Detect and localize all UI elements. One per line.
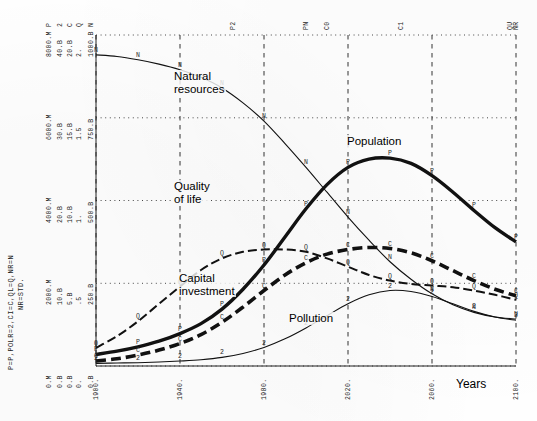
svg-text:N: N [178,62,182,69]
axis-code-C: C [67,23,74,27]
x-tick-2020: 2020. [345,378,352,400]
svg-text:C: C [346,242,350,249]
x-tick-2100: 2100. [513,378,520,400]
svg-text:C: C [136,347,140,354]
svg-text:2: 2 [388,283,392,290]
plot-svg: NNNNNNNNNNNPPPPPPPPPPPQQQQQQQQQQQCCCCCCC… [0,0,537,421]
svg-text:C: C [220,314,224,321]
top-marker-C0: C0 [324,21,331,30]
x-tick-2060: 2060. [429,378,436,400]
svg-text:C: C [430,253,434,260]
series-label-capital-investment: Capitalinvestment [178,272,236,297]
svg-text:Q: Q [346,259,350,266]
series-0: NNNNNNNNNNN [94,47,518,319]
svg-text:P: P [472,202,476,209]
series-label-pollution: Pollution [288,312,334,325]
series-label-natural-resources: Naturalresources [173,70,226,95]
y-tick-C-3: 5.B [67,292,74,305]
y-tick-2-3: 10.B [57,288,64,305]
svg-text:P: P [136,339,140,346]
svg-text:C: C [178,336,182,343]
x-tick-1900: 1900. [93,378,100,400]
axis-code-2: 2 [57,23,64,27]
series-label-population: Population [346,135,402,148]
y-tick-N-2: 500.B [88,201,95,223]
svg-text:C: C [388,241,392,248]
svg-text:P: P [262,257,266,264]
legend-key-text: P=P,POLR=2,CI=C,QL=Q,NR=N [8,255,15,370]
svg-text:2: 2 [220,349,224,356]
y-tick-P-0: 8000.M [46,31,53,57]
svg-text:2: 2 [514,312,518,319]
y-tick-N-3: 250.B [88,284,95,306]
svg-text:C: C [472,273,476,280]
svg-text:Q: Q [388,273,392,280]
top-marker-C1: C1 [398,21,405,30]
y-tick-P-3: 2000.M [46,279,53,305]
y-tick-P-4: 0.M [46,375,53,388]
top-marker-NR: NR [513,21,520,30]
svg-text:2: 2 [430,289,434,296]
svg-text:Q: Q [304,244,308,251]
x-tick-1940: 1940. [177,378,184,400]
y-tick-2-1: 30.B [57,123,64,140]
svg-text:P: P [430,168,434,175]
y-tick-P-1: 6000.M [46,114,53,140]
svg-text:P: P [514,234,518,241]
svg-text:P: P [304,201,308,208]
top-marker-P2: P2 [230,21,237,30]
svg-text:2: 2 [136,355,140,362]
svg-text:N: N [346,209,350,216]
svg-text:P: P [178,326,182,333]
y-tick-C-1: 15.B [67,123,74,140]
svg-text:C: C [514,288,518,295]
y-tick-Q-3: .5 [76,297,83,306]
svg-text:N: N [136,52,140,59]
svg-text:2: 2 [178,353,182,360]
svg-text:N: N [304,159,308,166]
svg-text:Q: Q [262,242,266,249]
y-tick-N-0: 1000.B [88,31,95,57]
axis-code-Q: Q [76,23,83,27]
chart-canvas: NNNNNNNNNNNPPPPPPPPPPPQQQQQQQQQQQCCCCCCC… [0,0,537,421]
svg-text:Q: Q [472,283,476,290]
svg-text:N: N [388,254,392,261]
y-tick-2-4: 0.B [57,375,64,388]
svg-text:Q: Q [136,313,140,320]
y-tick-C-0: 20.B [67,40,74,57]
y-tick-N-1: 750.B [88,118,95,140]
top-marker-PN: PN [303,21,310,30]
svg-text:P: P [388,150,392,157]
y-tick-Q-4: 0. [76,379,83,388]
y-tick-Q-1: 1.5 [76,127,83,140]
y-tick-2-2: 20.B [57,205,64,222]
svg-text:C: C [262,283,266,290]
axis-code-N: N [88,23,95,27]
y-tick-2-0: 40.B [57,40,64,57]
x-tick-1980: 1980. [261,378,268,400]
axis-code-P: P [46,23,53,27]
svg-text:Q: Q [220,250,224,257]
svg-text:P: P [220,301,224,308]
legend-note-text: NR=STD. [18,278,25,310]
svg-text:2: 2 [262,340,266,347]
svg-text:P: P [346,159,350,166]
series-label-quality-of-life: Qualityof life [173,180,211,205]
svg-text:Q: Q [430,278,434,285]
svg-text:2: 2 [346,296,350,303]
y-tick-Q-0: 2. [76,48,83,57]
svg-text:2: 2 [472,303,476,310]
svg-text:N: N [262,113,266,120]
svg-text:C: C [304,255,308,262]
y-tick-Q-2: 1. [76,214,83,223]
y-tick-P-2: 4000.M [46,197,53,223]
x-axis-title: Years [456,377,486,391]
y-tick-C-2: 10.B [67,205,74,222]
y-tick-C-4: 0.B [67,375,74,388]
